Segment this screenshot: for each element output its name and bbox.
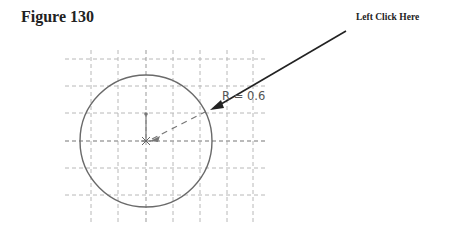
sketch-canvas[interactable]: [0, 0, 450, 229]
grid: [65, 50, 265, 222]
radius-dimension-label[interactable]: R = 0.6: [222, 89, 265, 103]
radius-dimension-line: [152, 112, 205, 139]
endpoint-marker: [144, 112, 148, 116]
